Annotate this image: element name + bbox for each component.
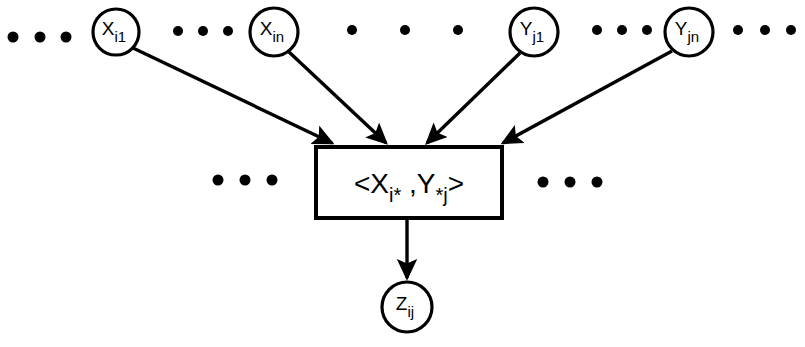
ellipsis-dot	[347, 25, 357, 35]
node-x_i1[interactable]: Xi1	[93, 9, 139, 55]
ellipsis-dot	[8, 32, 19, 43]
ellipsis-dot	[223, 26, 233, 36]
ellipsis-between-x	[173, 26, 233, 36]
ellipsis-dot	[592, 25, 602, 35]
diagram-svg: <Xi* ,Y*j> Xi1XinYj1YjnZij	[0, 0, 805, 347]
node-y_j1[interactable]: Yj1	[510, 8, 558, 56]
ellipsis-far-right	[733, 25, 796, 35]
ellipsis-dot	[642, 25, 652, 35]
process-box[interactable]: <Xi* ,Y*j>	[316, 147, 502, 218]
ellipsis-dot	[267, 175, 278, 186]
ellipsis-between-y	[592, 25, 652, 35]
ellipsis-far-left	[8, 32, 72, 43]
ellipsis-dot	[240, 175, 251, 186]
ellipsis-dot	[538, 177, 549, 188]
ellipsis-dot	[786, 25, 796, 35]
ellipsis-dot	[760, 25, 770, 35]
ellipsis-dot	[61, 32, 72, 43]
ellipsis-dot	[733, 25, 743, 35]
ellipsis-dot	[565, 177, 576, 188]
ellipsis-dot	[400, 25, 410, 35]
ellipsis-dot	[453, 25, 463, 35]
ellipsis-dot	[198, 26, 208, 36]
edge-y-jn-to-box	[503, 51, 672, 143]
ellipsis-dot	[213, 175, 224, 186]
node-z_ij[interactable]: Zij	[382, 282, 432, 332]
ellipsis-dot	[35, 32, 46, 43]
ellipsis-box-right	[538, 177, 603, 188]
ellipsis-dot	[617, 25, 627, 35]
node-x_in[interactable]: Xin	[250, 8, 298, 56]
ellipsis-dot	[592, 177, 603, 188]
process-box-layer: <Xi* ,Y*j>	[316, 147, 502, 218]
ellipsis-dot	[173, 26, 183, 36]
diagram-canvas: <Xi* ,Y*j> Xi1XinYj1YjnZij	[0, 0, 805, 347]
edge-y-j1-to-box	[427, 53, 520, 143]
ellipsis-between-x-y	[347, 25, 463, 35]
ellipsis-box-left	[213, 175, 278, 186]
node-y_jn[interactable]: Yjn	[665, 8, 713, 56]
